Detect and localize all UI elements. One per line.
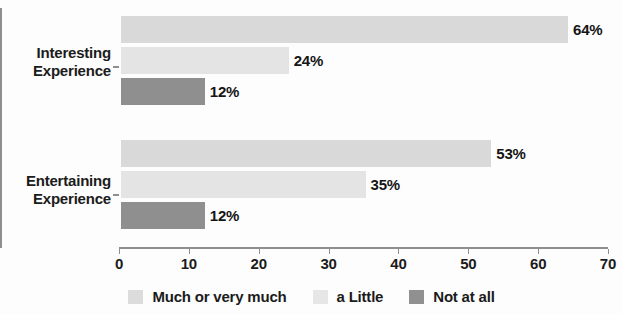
x-axis-tick	[119, 249, 120, 254]
x-axis-tick-label: 60	[518, 255, 558, 272]
bar-value-label: 35%	[371, 176, 400, 193]
x-axis-tick-label: 0	[99, 255, 139, 272]
x-axis-tick	[468, 249, 469, 254]
bar-chart: Interesting Experience Entertaining Expe…	[0, 0, 623, 315]
category-label-line1: Entertaining	[26, 172, 111, 189]
category-label-line2: Experience	[0, 62, 111, 80]
bar-value-label: 12%	[210, 207, 239, 224]
x-axis-tick-label: 20	[239, 255, 279, 272]
bar-interesting-much-or-very-much	[121, 16, 568, 43]
category-label-entertaining-experience: Entertaining Experience	[0, 172, 111, 209]
bar-entertaining-not-at-all	[121, 202, 205, 229]
x-axis-tick-label: 10	[169, 255, 209, 272]
legend-swatch-icon	[128, 290, 143, 304]
legend-swatch-icon	[409, 290, 424, 304]
category-label-interesting-experience: Interesting Experience	[0, 44, 111, 81]
category-label-line2: Experience	[0, 190, 111, 208]
x-axis-tick	[608, 249, 609, 254]
legend-item-not-at-all: Not at all	[409, 288, 494, 305]
legend-label: a Little	[337, 288, 384, 305]
x-axis-tick	[538, 249, 539, 254]
legend-swatch-icon	[313, 290, 328, 304]
x-axis-tick	[329, 249, 330, 254]
x-axis-tick	[259, 249, 260, 254]
bar-value-label: 24%	[294, 52, 323, 69]
y-axis-line	[0, 8, 2, 248]
legend-label: Not at all	[433, 288, 494, 305]
x-axis-tick-label: 40	[378, 255, 418, 272]
legend-item-a-little: a Little	[313, 288, 384, 305]
category-label-line1: Interesting	[37, 44, 111, 61]
legend-label: Much or very much	[152, 288, 286, 305]
x-axis-tick	[189, 249, 190, 254]
bar-interesting-a-little	[121, 47, 289, 74]
y-axis-tick	[113, 194, 119, 196]
x-axis-tick-label: 50	[448, 255, 488, 272]
legend-item-much-or-very-much: Much or very much	[128, 288, 286, 305]
bar-entertaining-a-little	[121, 171, 366, 198]
bar-value-label: 12%	[210, 83, 239, 100]
bar-value-label: 53%	[496, 145, 525, 162]
bar-interesting-not-at-all	[121, 78, 205, 105]
chart-legend: Much or very much a Little Not at all	[0, 288, 623, 305]
x-axis-tick-label: 30	[309, 255, 349, 272]
y-axis-tick	[113, 66, 119, 68]
x-axis-tick-label: 70	[588, 255, 623, 272]
x-axis-line	[119, 247, 608, 249]
bar-entertaining-much-or-very-much	[121, 140, 491, 167]
bar-value-label: 64%	[573, 21, 602, 38]
x-axis-tick	[398, 249, 399, 254]
